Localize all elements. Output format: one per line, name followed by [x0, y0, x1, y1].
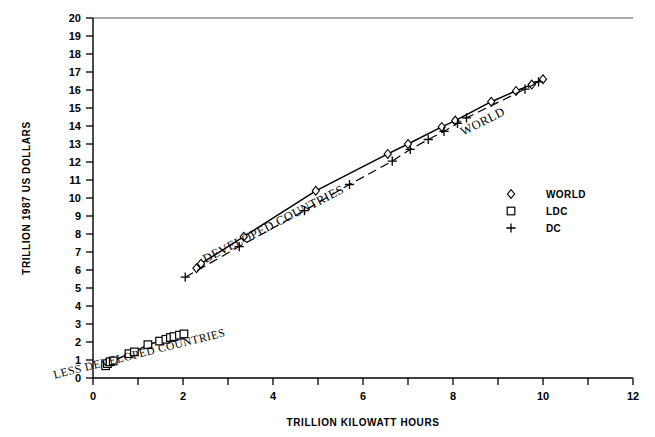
y-tick-label: 9 — [75, 210, 81, 222]
x-tick-label: 6 — [360, 390, 366, 402]
figure-caption — [0, 424, 655, 437]
y-tick-label: 3 — [75, 318, 81, 330]
x-tick-label: 2 — [180, 390, 186, 402]
x-tick-label: 12 — [627, 390, 639, 402]
data-point-plus — [181, 273, 190, 282]
y-tick-label: 6 — [75, 264, 81, 276]
y-tick-label: 2 — [75, 336, 81, 348]
y-tick-label: 5 — [75, 282, 81, 294]
chart-figure: 0123456789101112131415161718192002468101… — [0, 0, 655, 437]
y-tick-label: 15 — [69, 102, 81, 114]
data-point-plus — [388, 157, 397, 166]
y-tick-label: 19 — [69, 30, 81, 42]
y-tick-label: 17 — [69, 66, 81, 78]
data-point-plus — [424, 135, 433, 144]
y-tick-label: 10 — [69, 192, 81, 204]
data-point-plus — [506, 223, 515, 232]
y-tick-label: 11 — [69, 174, 81, 186]
data-point-diamond — [507, 190, 514, 199]
y-tick-label: 7 — [75, 246, 81, 258]
y-tick-label: 8 — [75, 228, 81, 240]
y-tick-label: 13 — [69, 138, 81, 150]
data-point-diamond — [384, 150, 391, 159]
data-point-plus — [345, 180, 354, 189]
annotation-developed-countries: DEVELOPED COUNTRIES — [201, 182, 347, 265]
y-tick-label: 16 — [69, 84, 81, 96]
scatter-plot-canvas: 0123456789101112131415161718192002468101… — [0, 0, 655, 437]
x-tick-label: 4 — [270, 390, 277, 402]
y-tick-label: 12 — [69, 156, 81, 168]
x-tick-label: 0 — [90, 390, 96, 402]
y-tick-label: 18 — [69, 48, 81, 60]
x-tick-label: 8 — [450, 390, 456, 402]
y-axis-title: TRILLION 1987 US DOLLARS — [21, 121, 32, 274]
legend: WORLDLDCDC — [506, 189, 585, 234]
data-point-square — [507, 207, 515, 215]
x-tick-label: 10 — [537, 390, 549, 402]
y-tick-label: 4 — [75, 300, 82, 312]
y-tick-label: 20 — [69, 12, 81, 24]
legend-label-ldc: LDC — [546, 206, 568, 217]
legend-label-dc: DC — [546, 223, 561, 234]
y-tick-label: 14 — [69, 120, 82, 132]
legend-label-world: WORLD — [546, 189, 586, 200]
